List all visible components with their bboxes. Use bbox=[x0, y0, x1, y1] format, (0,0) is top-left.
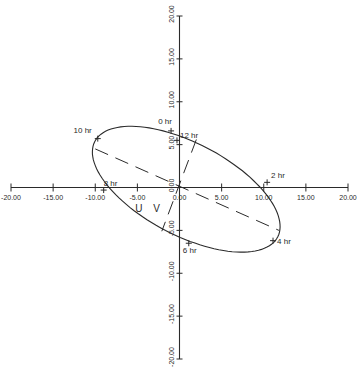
y-tick-label: 10.00 bbox=[168, 91, 175, 109]
hour-marker: 12 hr bbox=[174, 131, 199, 143]
x-tick-label: -5.00 bbox=[129, 194, 145, 201]
x-tick-label: 0.00 bbox=[173, 194, 187, 201]
x-tick-label: -10.00 bbox=[85, 194, 105, 201]
x-tick-label: 5.00 bbox=[215, 194, 229, 201]
y-tick-label: 0.00 bbox=[168, 179, 175, 193]
major-axis-dashed bbox=[95, 149, 279, 230]
uv-axis-label: U V bbox=[135, 203, 164, 214]
x-tick-label: -20.00 bbox=[1, 194, 21, 201]
hour-label: 6 hr bbox=[183, 246, 197, 255]
hour-label: 4 hr bbox=[277, 237, 291, 246]
hour-label: 10 hr bbox=[74, 126, 93, 135]
hour-label: 12 hr bbox=[180, 131, 199, 140]
hour-label: 2 hr bbox=[271, 171, 285, 180]
y-tick-label: -10.00 bbox=[168, 261, 175, 281]
y-tick-label: -15.00 bbox=[168, 304, 175, 324]
tidal-ellipse-chart: -20.00-15.00-10.00-5.000.005.0010.0015.0… bbox=[0, 0, 358, 372]
y-tick-label: 15.00 bbox=[168, 48, 175, 66]
hour-label: 0 hr bbox=[158, 117, 172, 126]
y-tick-label: 20.00 bbox=[168, 5, 175, 23]
plot-area bbox=[92, 126, 280, 252]
hour-marker: 2 hr bbox=[264, 171, 285, 185]
y-tick-label: 5.00 bbox=[168, 136, 175, 150]
x-tick-label: 15.00 bbox=[297, 194, 315, 201]
y-tick-label: -20.00 bbox=[168, 347, 175, 367]
x-tick-label: -15.00 bbox=[43, 194, 63, 201]
x-tick-label: 20.00 bbox=[339, 194, 357, 201]
hour-label: 8 hr bbox=[104, 179, 118, 188]
hour-marker: 8 hr bbox=[101, 179, 118, 193]
y-ticks: -20.00-15.00-10.00-5.000.005.0010.0015.0… bbox=[168, 5, 183, 367]
hour-marker: 4 hr bbox=[270, 237, 291, 246]
